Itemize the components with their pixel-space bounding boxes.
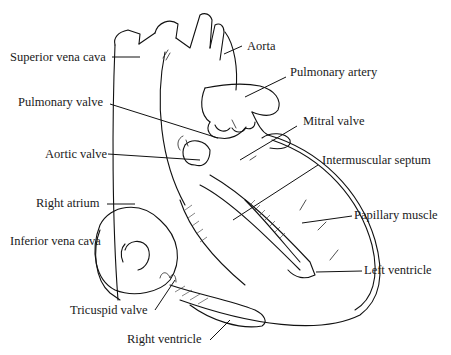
leader-aorta bbox=[224, 46, 242, 54]
svc-top-outline bbox=[115, 30, 140, 45]
label-superior-vena-cava: Superior vena cava bbox=[10, 51, 106, 64]
label-aortic-valve: Aortic valve bbox=[45, 148, 107, 161]
leader-aortic-valve bbox=[108, 154, 200, 160]
aorta-left-wall bbox=[160, 52, 185, 205]
label-inferior-vena-cava: Inferior vena cava bbox=[10, 235, 101, 248]
label-right-atrium: Right atrium bbox=[36, 197, 100, 210]
aortic-valve-cusps bbox=[183, 141, 210, 166]
aorta-right-wall bbox=[225, 32, 237, 90]
label-mitral-valve: Mitral valve bbox=[303, 115, 364, 128]
leader-intermuscular-septum bbox=[233, 165, 318, 220]
leader-mitral-valve bbox=[240, 126, 297, 160]
heart-diagram: Superior vena cava Aorta Pulmonary arter… bbox=[0, 0, 451, 355]
label-pulmonary-valve: Pulmonary valve bbox=[18, 96, 103, 109]
label-left-ventricle: Left ventricle bbox=[364, 264, 432, 277]
pulmonary-artery-outline bbox=[205, 84, 279, 115]
label-papillary-muscle: Papillary muscle bbox=[354, 209, 438, 222]
leader-pulmonary-artery bbox=[245, 77, 286, 97]
right-atrium-chamber bbox=[95, 207, 177, 293]
right-ventricle-wall bbox=[170, 285, 265, 327]
label-right-ventricle: Right ventricle bbox=[127, 333, 202, 346]
label-intermuscular-septum: Intermuscular septum bbox=[322, 154, 431, 167]
leader-left-ventricle bbox=[316, 271, 362, 272]
leader-right-ventricle bbox=[210, 320, 230, 340]
label-tricuspid-valve: Tricuspid valve bbox=[70, 304, 148, 317]
label-pulmonary-artery: Pulmonary artery bbox=[290, 66, 377, 79]
label-aorta: Aorta bbox=[247, 40, 275, 53]
leader-papillary-muscle bbox=[302, 216, 352, 223]
svc-left-wall bbox=[113, 45, 118, 300]
